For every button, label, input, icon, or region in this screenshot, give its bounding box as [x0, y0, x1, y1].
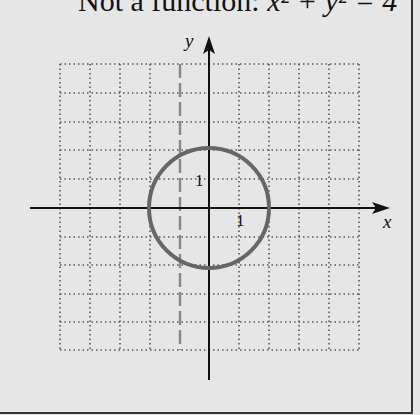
x-axis-label: x: [382, 211, 392, 232]
x-tick-label: 1: [236, 211, 245, 230]
y-tick-label: 1: [195, 171, 204, 190]
y-axis-label: y: [183, 30, 194, 51]
graph: y x 1 1: [0, 0, 420, 415]
